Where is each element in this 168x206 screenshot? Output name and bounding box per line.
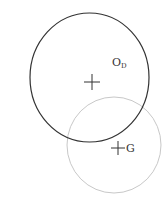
circle-g xyxy=(67,97,161,193)
center-marker-g xyxy=(111,141,125,155)
circle-d xyxy=(30,13,149,142)
label-g: G xyxy=(126,142,135,155)
center-marker-d xyxy=(84,74,100,90)
label-od: OD xyxy=(112,56,127,70)
diagram-canvas: OD G xyxy=(0,0,168,206)
